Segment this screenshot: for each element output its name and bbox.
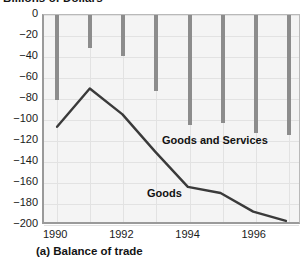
y-axis-tick-label: −60 xyxy=(0,70,38,82)
y-axis-tick-label: −160 xyxy=(0,175,38,187)
gridline-horizontal xyxy=(44,225,299,226)
figure-caption: (a) Balance of trade xyxy=(36,245,143,257)
y-axis-tick-label: −180 xyxy=(0,196,38,208)
y-axis-tick-label: −40 xyxy=(0,49,38,61)
y-axis-tick-label: −20 xyxy=(0,28,38,40)
x-axis-tick-label: 1996 xyxy=(241,228,265,240)
chart-title: Billions of Dollars xyxy=(3,0,103,4)
y-axis-tick-label: −80 xyxy=(0,91,38,103)
balance-of-trade-figure: Billions of Dollars Goods and Services G… xyxy=(0,0,308,267)
y-axis-tick-label: 0 xyxy=(0,7,38,19)
y-axis-tick-label: −120 xyxy=(0,133,38,145)
y-axis-tick-label: −100 xyxy=(0,112,38,124)
x-axis-tick-label: 1990 xyxy=(43,228,67,240)
y-axis-tick-labels: 0−20−40−60−80−100−120−140−160−180−200 xyxy=(0,14,308,224)
x-axis-tick-label: 1992 xyxy=(109,228,133,240)
y-axis-tick-label: −200 xyxy=(0,217,38,229)
x-axis-tick-label: 1994 xyxy=(175,228,199,240)
y-axis-tick-label: −140 xyxy=(0,154,38,166)
